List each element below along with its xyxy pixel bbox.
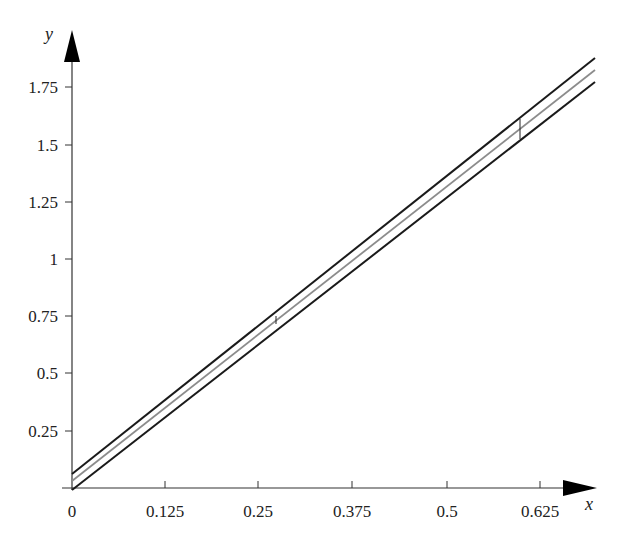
y-tick-label: 0.25 — [28, 422, 58, 441]
y-tick-label: 1.75 — [28, 78, 58, 97]
x-tick-label: 0.125 — [146, 502, 184, 521]
x-axis-label: x — [584, 494, 593, 514]
y-axis-label: y — [43, 24, 53, 44]
series-lower-line — [72, 82, 595, 490]
y-axis-arrow-icon — [64, 30, 80, 62]
x-tick-label: 0.5 — [436, 502, 457, 521]
chart: y x 0.25 0.5 0.75 1 1.25 1.5 1.75 0 0.12… — [0, 0, 617, 552]
series-upper-line — [72, 58, 595, 474]
x-tick-label: 0 — [68, 502, 77, 521]
series-middle-line — [72, 70, 595, 481]
x-tick-label: 0.625 — [521, 502, 559, 521]
y-ticks: 0.25 0.5 0.75 1 1.25 1.5 1.75 — [28, 78, 72, 441]
x-ticks: 0 0.125 0.25 0.375 0.5 0.625 — [68, 481, 559, 521]
y-tick-label: 1.5 — [37, 136, 58, 155]
y-tick-label: 1.25 — [28, 193, 58, 212]
x-tick-label: 0.375 — [333, 502, 371, 521]
y-tick-label: 0.5 — [37, 364, 58, 383]
x-tick-label: 0.25 — [243, 502, 273, 521]
y-tick-label: 1 — [50, 250, 59, 269]
y-tick-label: 0.75 — [28, 307, 58, 326]
